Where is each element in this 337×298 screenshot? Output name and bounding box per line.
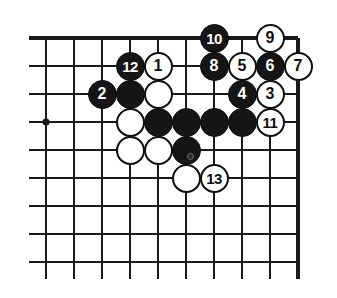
grid-lines [29,38,298,279]
star-points [42,118,49,125]
go-board-diagram: 10912185672431113 [0,0,337,298]
star-point-1 [42,118,49,125]
board-grid [0,0,337,298]
